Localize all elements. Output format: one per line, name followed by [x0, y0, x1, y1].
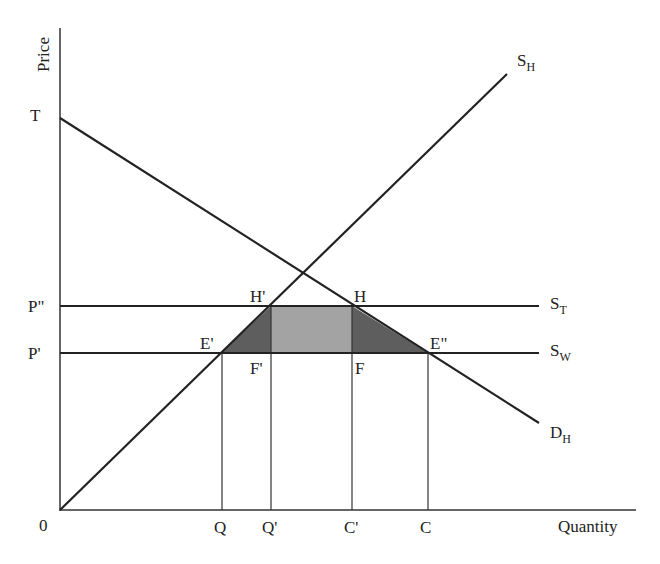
curve-label-S-T: ST [550, 294, 567, 317]
quantity-label-Q-prime: Q' [262, 518, 277, 537]
tariff-diagram: Price Quantity 0 T P" P' Q Q' C' C H' H … [0, 0, 660, 564]
tariff-revenue-area [271, 306, 352, 353]
price-label-P-prime: P' [28, 344, 41, 363]
point-label-H: H [354, 287, 366, 306]
point-label-E-prime: E' [200, 334, 213, 353]
domestic-demand-curve [60, 118, 539, 423]
curve-label-S-H: SH [517, 51, 535, 74]
origin-label: 0 [39, 516, 48, 535]
point-label-H-prime: H' [250, 287, 265, 306]
y-axis-label: Price [34, 37, 53, 72]
price-label-P-double-prime: P" [28, 297, 44, 316]
quantity-label-Q: Q [214, 518, 226, 537]
domestic-supply-curve [60, 74, 507, 510]
point-label-F: F [355, 359, 364, 378]
x-axis-label: Quantity [558, 517, 618, 536]
point-label-F-prime: F' [250, 359, 263, 378]
curve-label-D-H: DH [550, 423, 571, 446]
quantity-label-C: C [420, 518, 431, 537]
price-label-T: T [30, 106, 41, 125]
curve-label-S-W: SW [550, 341, 571, 364]
point-label-E-double-prime: E" [430, 334, 447, 353]
quantity-label-C-prime: C' [344, 518, 358, 537]
